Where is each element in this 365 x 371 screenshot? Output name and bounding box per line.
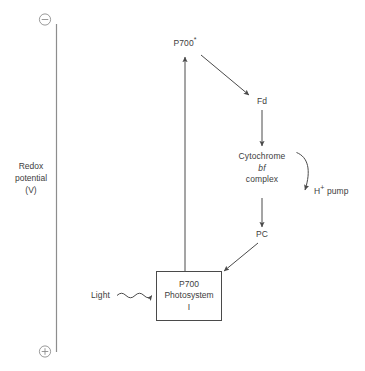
- photosystem-box-line2: Photosystem: [164, 290, 213, 302]
- redox-axis-caption-line3: (V): [25, 185, 36, 195]
- cytochrome-line2: bf: [258, 163, 265, 173]
- photosystem-box-line3: I: [188, 302, 190, 314]
- node-label-h-pump: H+ pump: [314, 186, 349, 197]
- node-label-light: Light: [91, 290, 110, 301]
- arrow-p700-excited-to-fd: [201, 55, 249, 95]
- redox-axis-caption-line1: Redox: [19, 161, 44, 171]
- pc-text: PC: [256, 229, 268, 239]
- arrow-cytochrome-to-h-pump: [297, 153, 309, 191]
- arrow-light-to-photosystem: [117, 293, 152, 298]
- diagram-canvas: Redox potential (V) P700* Fd Cytochrome …: [0, 0, 365, 371]
- p700-excited-text: P700: [173, 38, 193, 48]
- photosystem-box-line1: P700: [179, 279, 199, 291]
- cytochrome-line1: Cytochrome: [239, 151, 286, 161]
- photosystem-i-box: P700 Photosystem I: [156, 271, 222, 321]
- light-text: Light: [91, 290, 110, 300]
- cytochrome-line3: complex: [246, 174, 278, 184]
- node-label-pc: PC: [256, 229, 268, 240]
- node-label-fd: Fd: [257, 96, 267, 107]
- fd-text: Fd: [257, 96, 267, 106]
- redox-axis-caption: Redox potential (V): [15, 160, 47, 196]
- h-pump-suffix: pump: [324, 186, 348, 196]
- redox-axis-caption-line2: potential: [15, 173, 47, 183]
- p700-excited-superscript: *: [194, 36, 197, 43]
- node-label-p700-excited: P700*: [173, 38, 196, 49]
- node-label-cytochrome-bf-complex: Cytochrome bf complex: [239, 151, 286, 186]
- arrow-pc-to-photosystem: [224, 243, 258, 271]
